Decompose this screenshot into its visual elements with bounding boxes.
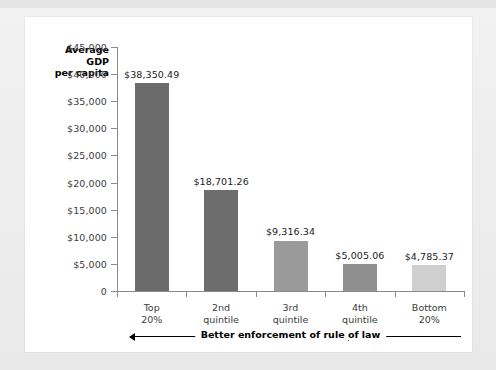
y-tick-mark xyxy=(111,155,117,156)
category-label-line: Top xyxy=(141,302,162,314)
figure-root: Average GDP per capita 0$5,000$10,000$15… xyxy=(0,0,496,370)
y-tick-mark xyxy=(111,74,117,75)
x-tick-mark xyxy=(395,291,396,297)
bar-value-label-5: $4,785.37 xyxy=(405,251,454,262)
bar-1 xyxy=(135,83,169,291)
y-axis-line xyxy=(117,47,118,292)
y-axis-title-line-2: GDP xyxy=(25,56,109,68)
category-label-line: quintile xyxy=(273,314,309,326)
category-label-5: Bottom20% xyxy=(412,302,447,325)
category-label-3: 3rdquintile xyxy=(273,302,309,325)
y-tick-label: $5,000 xyxy=(35,258,107,269)
category-label-line: Bottom xyxy=(412,302,447,314)
category-label-4: 4thquintile xyxy=(342,302,378,325)
annotation-label: Better enforcement of rule of law xyxy=(195,329,387,340)
category-label-line: quintile xyxy=(342,314,378,326)
page-top-band xyxy=(0,0,496,8)
y-tick-label: $20,000 xyxy=(35,177,107,188)
x-axis-line xyxy=(117,291,464,292)
bar-value-label-2: $18,701.26 xyxy=(193,176,248,187)
y-tick-mark xyxy=(111,264,117,265)
y-tick-label: $15,000 xyxy=(35,204,107,215)
x-tick-mark xyxy=(117,291,118,297)
y-tick-mark xyxy=(111,101,117,102)
y-tick-mark xyxy=(111,47,117,48)
x-tick-mark xyxy=(186,291,187,297)
category-label-1: Top20% xyxy=(141,302,162,325)
y-tick-label: $25,000 xyxy=(35,150,107,161)
y-tick-mark xyxy=(111,237,117,238)
y-tick-label: $35,000 xyxy=(35,96,107,107)
y-tick-mark xyxy=(111,128,117,129)
category-label-line: 2nd xyxy=(203,302,239,314)
category-label-line: 20% xyxy=(141,314,162,326)
x-tick-mark xyxy=(325,291,326,297)
bar-2 xyxy=(204,190,238,291)
category-label-line: 4th xyxy=(342,302,378,314)
bar-value-label-1: $38,350.49 xyxy=(124,69,179,80)
bar-value-label-4: $5,005.06 xyxy=(335,250,384,261)
y-tick-mark xyxy=(111,183,117,184)
y-tick-label: $40,000 xyxy=(35,69,107,80)
x-tick-mark xyxy=(256,291,257,297)
category-label-line: 20% xyxy=(412,314,447,326)
y-tick-mark xyxy=(111,210,117,211)
bar-3 xyxy=(274,241,308,292)
y-tick-label: 0 xyxy=(35,286,107,297)
y-tick-label: $45,000 xyxy=(35,42,107,53)
category-label-line: 3rd xyxy=(273,302,309,314)
bar-4 xyxy=(343,264,377,291)
bar-value-label-3: $9,316.34 xyxy=(266,226,315,237)
chart-panel: Average GDP per capita 0$5,000$10,000$15… xyxy=(25,17,472,352)
y-tick-label: $30,000 xyxy=(35,123,107,134)
bar-5 xyxy=(412,265,446,291)
rule-of-law-annotation: Better enforcement of rule of law xyxy=(117,329,464,345)
x-tick-mark xyxy=(464,291,465,297)
y-tick-label: $10,000 xyxy=(35,231,107,242)
category-label-line: quintile xyxy=(203,314,239,326)
category-label-2: 2ndquintile xyxy=(203,302,239,325)
